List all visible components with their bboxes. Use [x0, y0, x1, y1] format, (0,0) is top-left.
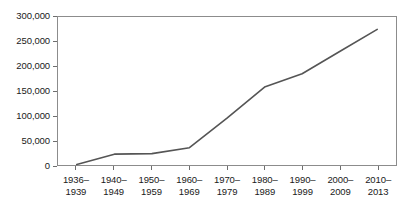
x-axis-tick-label: 1960–1969 [176, 174, 202, 197]
x-axis-tick-label: 1936–1939 [63, 174, 89, 197]
y-axis-tick-label: 200,000 [16, 61, 53, 71]
y-axis-tick-label: 150,000 [16, 86, 53, 96]
x-axis-tick-mark [151, 166, 152, 170]
x-axis-tick-mark [75, 166, 76, 170]
x-axis-tick-label-line1: 1980– [252, 174, 278, 185]
x-axis-tick-label-line2: 1999 [290, 186, 316, 198]
x-axis-tick-label-line1: 1990– [290, 174, 316, 185]
y-axis-tick-label: 100,000 [16, 111, 53, 121]
x-axis-tick-label-line1: 2010– [365, 174, 391, 185]
x-axis-tick-label-line2: 2013 [365, 186, 391, 198]
x-axis-tick-label-line1: 1960– [176, 174, 202, 185]
x-axis-tick-label-line1: 1936– [63, 174, 89, 185]
x-axis-tick-mark [227, 166, 228, 170]
x-axis-tick-label: 1940–1949 [101, 174, 127, 197]
y-axis-tick-label: 250,000 [16, 36, 53, 46]
x-axis-tick-label: 2000–2009 [327, 174, 353, 197]
data-series-line [77, 29, 377, 164]
y-axis: 050,000100,000150,000200,000250,000300,0… [0, 0, 57, 182]
x-axis-tick-label-line1: 1940– [101, 174, 127, 185]
x-axis-tick-label-line2: 1979 [214, 186, 240, 198]
x-axis-tick-label-line2: 2009 [327, 186, 353, 198]
plot-area [57, 16, 397, 166]
y-axis-tick-label: 50,000 [22, 136, 53, 146]
x-axis-tick-label-line2: 1969 [176, 186, 202, 198]
x-axis-tick-label-line1: 2000– [327, 174, 353, 185]
x-axis-tick-mark [340, 166, 341, 170]
x-axis-tick-mark [189, 166, 190, 170]
x-axis-tick-mark [378, 166, 379, 170]
x-axis-tick-label-line1: 1970– [214, 174, 240, 185]
x-axis-tick-label: 1970–1979 [214, 174, 240, 197]
y-axis-tick-label: 0 [45, 161, 53, 171]
x-axis-tick-label-line1: 1950– [138, 174, 164, 185]
x-axis-tick-mark [302, 166, 303, 170]
x-axis-tick-label: 1990–1999 [290, 174, 316, 197]
x-axis-tick-mark [264, 166, 265, 170]
x-axis-tick-label-line2: 1989 [252, 186, 278, 198]
x-axis-tick-mark [113, 166, 114, 170]
x-axis: 1936–19391940–19491950–19591960–19691970… [57, 166, 397, 211]
x-axis-tick-label: 2010–2013 [365, 174, 391, 197]
x-axis-tick-label-line2: 1949 [101, 186, 127, 198]
x-axis-tick-label: 1980–1989 [252, 174, 278, 197]
y-axis-tick-label: 300,000 [16, 11, 53, 21]
series-line [58, 17, 396, 165]
line-chart: 050,000100,000150,000200,000250,000300,0… [0, 0, 419, 211]
x-axis-tick-label-line2: 1959 [138, 186, 164, 198]
x-axis-tick-label-line2: 1939 [63, 186, 89, 198]
x-axis-tick-label: 1950–1959 [138, 174, 164, 197]
